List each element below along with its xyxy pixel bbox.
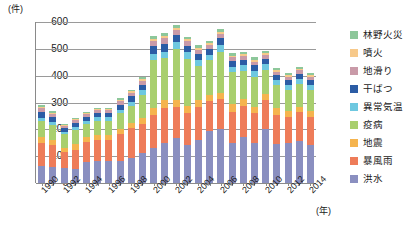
bar-segment-地震: [251, 107, 258, 114]
legend-item-label: 地滑り: [363, 66, 393, 76]
bar-segment-干ばつ: [150, 46, 157, 54]
bar-segment-暴風雨: [83, 142, 90, 161]
gridline: [36, 22, 316, 23]
legend-item-label: 疫病: [363, 120, 383, 130]
bar-segment-疫病: [150, 60, 157, 108]
bar-segment-暴風雨: [206, 101, 213, 131]
bar-segment-疫病: [139, 95, 146, 118]
bar-segment-疫病: [273, 85, 280, 109]
bar-segment-暴風雨: [285, 117, 292, 143]
bar-segment-暴風雨: [173, 107, 180, 138]
bar-segment-疫病: [296, 84, 303, 107]
bar-2008: [240, 52, 247, 183]
bar-segment-暴風雨: [94, 140, 101, 161]
bar-segment-洪水: [173, 138, 180, 183]
bar-segment-洪水: [240, 137, 247, 183]
bar-segment-暴風雨: [195, 107, 202, 140]
legend-item-洪水[interactable]: 洪水: [350, 170, 414, 188]
bar-segment-異常気温: [173, 42, 180, 49]
bar-segment-干ばつ: [161, 44, 168, 52]
legend-item-label: 干ばつ: [363, 84, 393, 94]
bar-segment-疫病: [72, 130, 79, 144]
bar-segment-疫病: [307, 90, 314, 111]
legend-swatch-icon: [350, 139, 358, 147]
bar-segment-洪水: [307, 145, 314, 183]
legend-item-label: 地震: [363, 138, 383, 148]
legend-swatch-icon: [350, 85, 358, 93]
bar-segment-暴風雨: [296, 112, 303, 141]
bar-segment-暴風雨: [150, 115, 157, 147]
legend-swatch-icon: [350, 175, 358, 183]
legend-item-林野火災[interactable]: 林野火災: [350, 26, 414, 44]
bar-segment-地震: [229, 104, 236, 112]
bar-segment-疫病: [128, 106, 135, 123]
bar-2003: [184, 37, 191, 183]
bar-1996: [105, 108, 112, 183]
bar-segment-暴風雨: [128, 128, 135, 158]
bar-segment-疫病: [240, 71, 247, 99]
bar-1992: [61, 124, 68, 183]
legend-item-暴風雨[interactable]: 暴風雨: [350, 152, 414, 170]
bar-1991: [49, 111, 56, 183]
bar-segment-疫病: [285, 90, 292, 111]
bar-2002: [173, 25, 180, 183]
bar-segment-地震: [240, 99, 247, 106]
legend-item-噴火[interactable]: 噴火: [350, 44, 414, 62]
bar-segment-暴風雨: [184, 113, 191, 145]
legend-item-疫病[interactable]: 疫病: [350, 116, 414, 134]
bar-segment-地震: [195, 100, 202, 108]
bar-segment-疫病: [105, 121, 112, 135]
bar-segment-洪水: [262, 129, 269, 183]
bar-2013: [296, 67, 303, 183]
bar-segment-暴風雨: [240, 106, 247, 138]
stacked-bar-chart: (件) 6005004003002001000 1990199219941996…: [0, 0, 414, 230]
bar-segment-疫病: [161, 58, 168, 100]
bar-segment-暴風雨: [161, 108, 168, 143]
bar-2014: [307, 73, 314, 183]
chart-legend: 林野火災噴火地滑り干ばつ異常気温疫病地震暴風雨洪水: [350, 26, 414, 188]
bar-segment-干ばつ: [173, 35, 180, 43]
bar-segment-干ばつ: [184, 46, 191, 53]
bar-2004: [195, 45, 202, 183]
bar-segment-疫病: [83, 124, 90, 137]
bar-1995: [94, 108, 101, 183]
bar-segment-地震: [184, 106, 191, 114]
bar-segment-暴風雨: [72, 150, 79, 169]
legend-swatch-icon: [350, 103, 358, 111]
bar-2012: [285, 73, 292, 183]
bar-2009: [251, 57, 258, 183]
bar-segment-暴風雨: [307, 117, 314, 145]
bar-segment-暴風雨: [217, 99, 224, 129]
bar-1998: [128, 90, 135, 183]
legend-item-地滑り[interactable]: 地滑り: [350, 62, 414, 80]
bar-segment-地震: [150, 108, 157, 116]
bar-segment-洪水: [83, 162, 90, 183]
legend-item-label: 噴火: [363, 48, 383, 58]
bar-2007: [229, 53, 236, 183]
legend-item-干ばつ[interactable]: 干ばつ: [350, 80, 414, 98]
bar-segment-暴風雨: [229, 112, 236, 144]
bar-segment-疫病: [94, 121, 101, 135]
legend-item-異常気温[interactable]: 異常気温: [350, 98, 414, 116]
bar-2005: [206, 41, 213, 183]
bar-segment-地震: [173, 100, 180, 107]
bar-2010: [262, 51, 269, 183]
bar-segment-疫病: [61, 134, 68, 147]
legend-item-label: 洪水: [363, 174, 383, 184]
bar-segment-暴風雨: [139, 124, 146, 154]
bar-segment-疫病: [262, 70, 269, 94]
bar-segment-地震: [217, 93, 224, 100]
bar-segment-干ばつ: [217, 38, 224, 45]
legend-item-地震[interactable]: 地震: [350, 134, 414, 152]
bar-segment-疫病: [251, 77, 258, 107]
legend-swatch-icon: [350, 31, 358, 39]
bar-segment-洪水: [128, 158, 135, 183]
legend-swatch-icon: [350, 67, 358, 75]
legend-item-label: 異常気温: [363, 102, 403, 112]
bar-segment-洪水: [217, 129, 224, 183]
bar-segment-洪水: [105, 161, 112, 183]
bar-segment-疫病: [49, 125, 56, 140]
bar-segment-洪水: [285, 143, 292, 183]
bar-segment-洪水: [195, 140, 202, 183]
bar-segment-疫病: [229, 72, 236, 104]
